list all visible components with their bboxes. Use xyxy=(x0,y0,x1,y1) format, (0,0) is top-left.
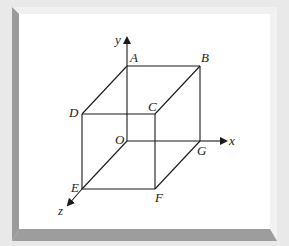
cube-diagram: y x z A B C D O G E F xyxy=(0,0,289,246)
vertex-label-E: E xyxy=(70,180,79,195)
z-axis-label: z xyxy=(57,203,63,218)
frame-bottom-bevel xyxy=(12,229,277,241)
panel xyxy=(19,14,270,229)
figure-frame: y x z A B C D O G E F xyxy=(12,7,277,241)
frame-top-bevel xyxy=(12,7,277,14)
vertex-label-O: O xyxy=(115,132,125,147)
x-axis-label: x xyxy=(228,133,235,148)
vertex-label-G: G xyxy=(197,143,207,158)
vertex-label-A: A xyxy=(129,50,138,65)
frame-right-bevel xyxy=(270,7,277,241)
y-axis-label: y xyxy=(113,32,121,47)
vertex-label-C: C xyxy=(148,99,157,114)
vertex-label-D: D xyxy=(68,105,79,120)
vertex-label-B: B xyxy=(201,50,209,65)
vertex-label-F: F xyxy=(154,190,164,205)
frame-left-bevel xyxy=(12,7,19,241)
